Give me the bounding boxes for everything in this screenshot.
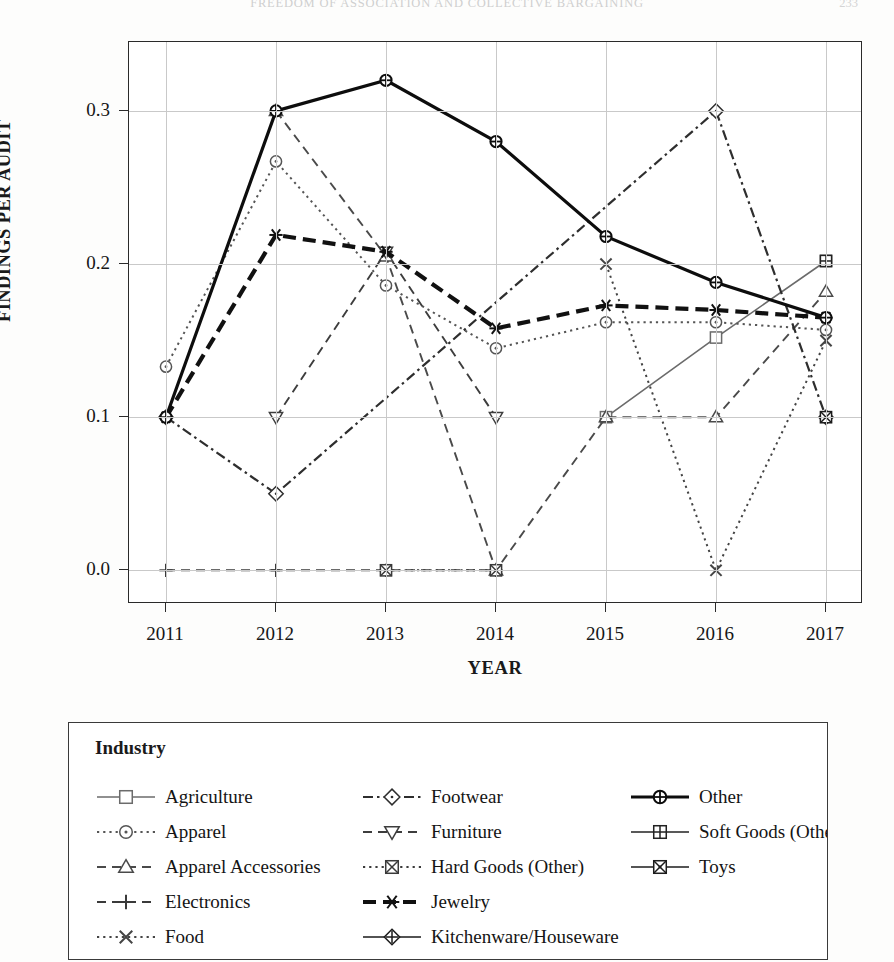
legend-item-label: Other	[693, 786, 742, 808]
y-tick-mark	[119, 263, 128, 264]
legend-key	[361, 821, 425, 843]
legend-column-1: AgricultureApparelApparel AccessoriesEle…	[95, 779, 321, 954]
legend-item[interactable]: Food	[95, 919, 321, 954]
legend-key-square-x-icon	[361, 856, 423, 878]
legend-key	[95, 786, 159, 808]
legend-item-label: Jewelry	[425, 891, 490, 913]
legend-item[interactable]: Agriculture	[95, 779, 321, 814]
legend-key	[629, 856, 693, 878]
legend-item-label: Footwear	[425, 786, 503, 808]
gridline-horizontal	[129, 417, 861, 418]
legend-item-label: Hard Goods (Other)	[425, 856, 584, 878]
legend-key-x-icon	[95, 926, 157, 948]
gridline-vertical	[716, 42, 717, 602]
legend-column-2: FootwearFurnitureHard Goods (Other)Jewel…	[361, 779, 619, 954]
legend-item[interactable]: Footwear	[361, 779, 619, 814]
legend-box: Industry AgricultureApparelApparel Acces…	[68, 722, 828, 960]
x-tick-label: 2016	[670, 623, 760, 645]
legend-item-label: Soft Goods (Other)	[693, 821, 828, 843]
data-point-plus	[119, 894, 134, 909]
legend-key	[629, 821, 693, 843]
legend-key-triangle-up-icon	[95, 856, 157, 878]
legend-item[interactable]: Kitchenware/Houseware	[361, 919, 619, 954]
gridline-vertical	[496, 42, 497, 602]
x-tick-mark	[385, 603, 386, 612]
legend-key-asterisk-icon	[361, 891, 423, 913]
legend-item[interactable]: Toys	[629, 849, 828, 884]
data-point-diamond-plus	[384, 929, 399, 944]
legend-item[interactable]: Furniture	[361, 814, 619, 849]
legend-key-square-cross-icon	[629, 856, 691, 878]
gridline-horizontal	[129, 570, 861, 571]
gridline-vertical	[166, 42, 167, 602]
legend-key-diamond-icon	[361, 786, 423, 808]
legend-item[interactable]: Hard Goods (Other)	[361, 849, 619, 884]
y-tick-mark	[119, 569, 128, 570]
legend-item-label: Apparel	[159, 821, 226, 843]
y-tick-label: 0.1	[52, 405, 110, 427]
legend-item[interactable]: Jewelry	[361, 884, 619, 919]
legend-key-circle-plus-icon	[629, 786, 691, 808]
y-tick-label: 0.3	[52, 99, 110, 121]
legend-key-triangle-down-icon	[361, 821, 423, 843]
legend-key-square-plus-icon	[629, 821, 691, 843]
x-tick-mark	[715, 603, 716, 612]
x-tick-mark	[825, 603, 826, 612]
data-point-square-cross	[654, 860, 667, 873]
data-point-x	[120, 930, 133, 943]
legend-key	[95, 821, 159, 843]
y-tick-mark	[119, 416, 128, 417]
legend-item[interactable]: Other	[629, 779, 828, 814]
x-tick-mark	[605, 603, 606, 612]
y-axis-title: FINDINGS PER AUDIT	[0, 119, 15, 322]
plot-frame	[128, 41, 862, 603]
x-tick-mark	[165, 603, 166, 612]
legend-key-diamond-plus-icon	[361, 926, 423, 948]
gridline-horizontal	[129, 264, 861, 265]
x-tick-label: 2017	[780, 623, 870, 645]
legend-item-label: Kitchenware/Houseware	[425, 926, 619, 948]
y-tick-label: 0.0	[52, 558, 110, 580]
legend-key	[361, 786, 425, 808]
x-tick-label: 2014	[450, 623, 540, 645]
data-point-triangle-down	[385, 826, 400, 839]
legend-key-plus-icon	[95, 891, 157, 913]
x-axis-title: YEAR	[128, 658, 862, 679]
legend-item-label: Electronics	[159, 891, 250, 913]
series-line	[276, 111, 826, 570]
data-point-square-x	[386, 860, 399, 873]
legend-key	[629, 786, 693, 808]
gridline-horizontal	[129, 111, 861, 112]
gridline-vertical	[276, 42, 277, 602]
legend-item-label: Agriculture	[159, 786, 253, 808]
legend-title: Industry	[95, 737, 166, 759]
legend-key-circle-icon	[95, 821, 157, 843]
legend-item-label: Toys	[693, 856, 736, 878]
legend-key	[95, 926, 159, 948]
data-point-asterisk	[385, 895, 400, 908]
x-tick-label: 2015	[560, 623, 650, 645]
legend-key-square-icon	[95, 786, 157, 808]
legend-key	[361, 926, 425, 948]
legend-item-label: Apparel Accessories	[159, 856, 321, 878]
gridline-vertical	[826, 42, 827, 602]
data-point-square	[120, 790, 133, 803]
legend-item[interactable]: Soft Goods (Other)	[629, 814, 828, 849]
y-tick-mark	[119, 110, 128, 111]
data-point-circle-plus	[654, 790, 667, 803]
legend-item[interactable]: Electronics	[95, 884, 321, 919]
x-tick-mark	[275, 603, 276, 612]
legend-key	[95, 856, 159, 878]
gridline-vertical	[606, 42, 607, 602]
gridline-vertical	[386, 42, 387, 602]
x-tick-mark	[495, 603, 496, 612]
y-tick-label: 0.2	[52, 252, 110, 274]
legend-column-3: OtherSoft Goods (Other)Toys	[629, 779, 828, 884]
data-point-square-plus	[654, 825, 667, 838]
data-point-diamond	[384, 789, 400, 805]
x-tick-label: 2012	[230, 623, 320, 645]
x-tick-label: 2013	[340, 623, 430, 645]
legend-item[interactable]: Apparel	[95, 814, 321, 849]
legend-item[interactable]: Apparel Accessories	[95, 849, 321, 884]
legend-key	[95, 891, 159, 913]
